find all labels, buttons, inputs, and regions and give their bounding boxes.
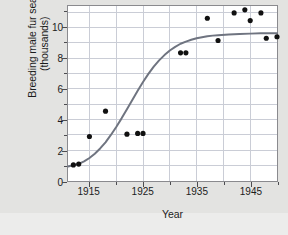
y-axis-title-line2: (thousands) bbox=[39, 0, 51, 119]
y-axis-tick-label: 0 bbox=[45, 177, 63, 188]
data-point bbox=[232, 10, 237, 15]
x-axis-tick-label: 1915 bbox=[78, 186, 100, 197]
x-axis-minor-tick bbox=[170, 182, 171, 185]
data-point bbox=[71, 162, 76, 167]
y-axis-minor-tick bbox=[64, 166, 67, 167]
x-axis-tick-label: 1945 bbox=[240, 186, 262, 197]
data-point bbox=[274, 34, 279, 39]
data-point bbox=[215, 38, 220, 43]
data-point bbox=[248, 18, 253, 23]
y-axis-major-tick bbox=[62, 120, 67, 121]
y-axis-minor-tick bbox=[64, 11, 67, 12]
data-point bbox=[87, 134, 92, 139]
data-point bbox=[264, 36, 269, 41]
fit-curve bbox=[68, 33, 277, 166]
y-axis-major-tick bbox=[62, 27, 67, 28]
data-point bbox=[76, 162, 81, 167]
plot-area bbox=[67, 5, 278, 182]
y-axis-tick-label: 2 bbox=[45, 145, 63, 156]
y-axis-major-tick bbox=[62, 151, 67, 152]
x-axis-tick-label: 1935 bbox=[186, 186, 208, 197]
x-axis-tick-label: 1925 bbox=[132, 186, 154, 197]
x-axis-major-tick bbox=[143, 182, 144, 187]
chart-figure: 0246810 Breeding male fur seals (thousan… bbox=[0, 0, 288, 235]
y-axis-minor-tick bbox=[64, 104, 67, 105]
y-axis-minor-tick bbox=[64, 135, 67, 136]
x-axis-minor-tick bbox=[224, 182, 225, 185]
y-axis-title-line1: Breeding male fur seals bbox=[26, 0, 38, 98]
data-point bbox=[242, 7, 247, 12]
data-point bbox=[178, 50, 183, 55]
y-axis-major-tick bbox=[62, 182, 67, 183]
data-point bbox=[140, 131, 145, 136]
x-axis-title: Year bbox=[67, 208, 278, 220]
data-point bbox=[205, 16, 210, 21]
data-point bbox=[135, 131, 140, 136]
data-point bbox=[183, 50, 188, 55]
y-axis-minor-tick bbox=[64, 42, 67, 43]
y-axis-minor-tick bbox=[64, 73, 67, 74]
x-axis-major-tick bbox=[197, 182, 198, 187]
x-axis-major-tick bbox=[89, 182, 90, 187]
data-point bbox=[124, 132, 129, 137]
x-axis-minor-tick bbox=[278, 182, 279, 185]
x-axis-minor-tick bbox=[116, 182, 117, 185]
data-point bbox=[258, 10, 263, 15]
y-axis-major-tick bbox=[62, 89, 67, 90]
x-axis-major-tick bbox=[251, 182, 252, 187]
y-axis-major-tick bbox=[62, 58, 67, 59]
data-point bbox=[103, 109, 108, 114]
data-layer bbox=[68, 6, 277, 181]
y-axis-title: Breeding male fur seals (thousands) bbox=[27, 0, 51, 119]
